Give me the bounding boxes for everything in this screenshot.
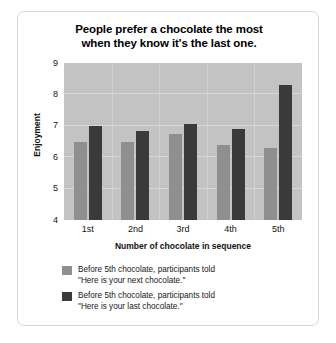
x-axis-tick-label: 2nd bbox=[112, 224, 160, 234]
x-axis-tick-label: 4th bbox=[207, 224, 255, 234]
bar bbox=[136, 131, 149, 220]
bar bbox=[232, 129, 245, 220]
legend-item-last: Before 5th chocolate, participants told … bbox=[62, 291, 312, 312]
legend-label-last-line-1: Before 5th chocolate, participants told bbox=[78, 291, 312, 302]
x-axis-tick-label: 1st bbox=[64, 224, 112, 234]
gridline-vertical bbox=[254, 63, 255, 220]
bar bbox=[279, 85, 292, 220]
plot-area bbox=[64, 63, 302, 220]
chart-card: People prefer a chocolate the most when … bbox=[17, 11, 319, 326]
bar bbox=[217, 145, 230, 220]
y-axis-tick-label: 6 bbox=[18, 153, 58, 162]
bar bbox=[74, 142, 87, 221]
legend-swatch-icon-light bbox=[62, 266, 72, 275]
x-axis-tick-label: 5th bbox=[254, 224, 302, 234]
y-axis-tick-label: 5 bbox=[18, 184, 58, 193]
y-axis-tick-label: 9 bbox=[18, 59, 58, 68]
legend-label-next: Before 5th chocolate, participants told … bbox=[78, 265, 312, 286]
legend-label-last-line-2: "Here is your last chocolate." bbox=[78, 302, 312, 313]
legend-label-next-line-1: Before 5th chocolate, participants told bbox=[78, 265, 312, 276]
y-axis-tick-label: 4 bbox=[18, 216, 58, 225]
gridline-vertical bbox=[207, 63, 208, 220]
y-axis-tick-label: 7 bbox=[18, 121, 58, 130]
bar bbox=[169, 134, 182, 220]
legend-label-last: Before 5th chocolate, participants told … bbox=[78, 291, 312, 312]
legend-swatch-icon-dark bbox=[62, 292, 72, 301]
x-axis-title: Number of chocolate in sequence bbox=[64, 241, 302, 251]
gridline bbox=[64, 93, 302, 94]
bar bbox=[121, 142, 134, 221]
gridline-vertical bbox=[112, 63, 113, 220]
bar bbox=[264, 148, 277, 220]
legend-item-next: Before 5th chocolate, participants told … bbox=[62, 265, 312, 286]
gridline-vertical bbox=[159, 63, 160, 220]
y-axis-title: Enjoyment bbox=[32, 95, 42, 175]
bar bbox=[184, 124, 197, 220]
bar bbox=[89, 126, 102, 220]
chart-legend: Before 5th chocolate, participants told … bbox=[62, 265, 312, 317]
legend-label-next-line-2: "Here is your next chocolate." bbox=[78, 276, 312, 287]
x-axis-tick-label: 3rd bbox=[159, 224, 207, 234]
y-axis-tick-label: 8 bbox=[18, 90, 58, 99]
